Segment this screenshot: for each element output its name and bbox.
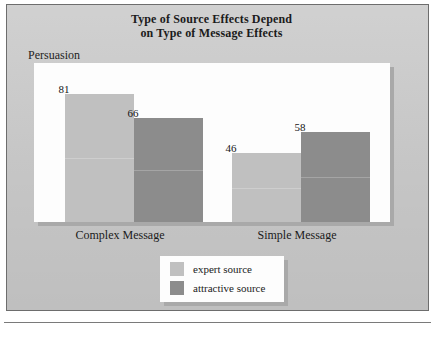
legend-swatch-attractive-source [170,281,184,295]
y-axis-label: Persuasion [28,48,80,63]
legend-label-attractive-source: attractive source [193,282,265,294]
figure-page: Type of Source Effects Depend on Type of… [0,0,435,337]
bar-value-simple-expert: 46 [211,142,251,154]
legend-label-expert-source: expert source [193,263,252,275]
bar-simple-attractive [301,132,370,222]
bar-value-complex-attractive: 66 [113,107,153,119]
bar-value-simple-attractive: 58 [280,121,320,133]
chart-legend: expert source attractive source [160,256,284,302]
chart-title: Type of Source Effects Depend on Type of… [0,12,423,40]
legend-item-expert-source: expert source [170,261,252,277]
chart-title-line-1: Type of Source Effects Depend [0,12,423,26]
chart-title-line-2: on Type of Message Effects [0,26,423,40]
bar-complex-attractive [134,118,203,222]
category-label-simple-message: Simple Message [217,228,377,243]
bottom-rule [4,322,431,323]
category-label-complex-message: Complex Message [40,228,200,243]
legend-item-attractive-source: attractive source [170,280,265,296]
legend-swatch-expert-source [170,262,184,276]
bar-value-complex-expert: 81 [44,83,84,95]
bar-simple-expert [232,153,301,222]
